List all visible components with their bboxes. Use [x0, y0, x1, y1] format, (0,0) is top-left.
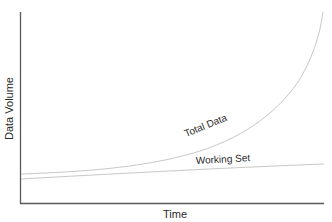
y-axis-label: Data Volume	[3, 77, 15, 140]
total-data-label: Total Data	[183, 112, 229, 139]
x-axis-label: Time	[163, 208, 187, 220]
growth-chart: Total Data Working Set Time Data Volume	[0, 0, 332, 222]
working-set-label: Working Set	[196, 152, 251, 166]
total-data-curve	[21, 12, 323, 174]
